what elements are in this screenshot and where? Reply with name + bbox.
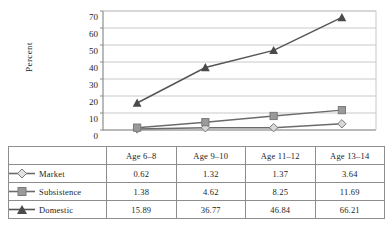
data-point-domestic-0 <box>133 99 142 107</box>
gridlines <box>103 11 376 130</box>
series-line-domestic <box>137 17 342 103</box>
data-point-subsistence-3 <box>338 107 345 114</box>
data-point-domestic-3 <box>337 13 346 21</box>
cell-subsistence-age-11-12: 8.25 <box>246 183 316 201</box>
table-header-age-13-14: Age 13–14 <box>315 147 385 165</box>
table-header-age-11-12: Age 11–12 <box>246 147 316 165</box>
plot-canvas <box>0 0 392 143</box>
table-row: Domestic 15.89 36.77 46.84 66.21 <box>9 201 385 219</box>
data-point-subsistence-1 <box>202 119 209 126</box>
table-row: Market 0.62 1.32 1.37 3.64 <box>9 165 385 183</box>
legend-label-subsistence: Subsistence <box>39 187 81 197</box>
table-header-row: Age 6–8 Age 9–10 Age 11–12 Age 13–14 <box>9 147 385 165</box>
legend-label-domestic: Domestic <box>39 205 73 215</box>
legend-item-market[interactable]: Market <box>9 165 107 183</box>
table-header-age-9-10: Age 9–10 <box>176 147 246 165</box>
table-header-age-6-8: Age 6–8 <box>107 147 177 165</box>
market-legend-icon <box>9 168 35 179</box>
data-point-market-3 <box>338 120 346 128</box>
cell-domestic-age-11-12: 46.84 <box>246 201 316 219</box>
cell-domestic-age-9-10: 36.77 <box>176 201 246 219</box>
data-point-subsistence-2 <box>270 112 277 119</box>
table-row: Subsistence 1.38 4.62 8.25 11.69 <box>9 183 385 201</box>
data-point-domestic-2 <box>269 46 278 54</box>
cell-domestic-age-13-14: 66.21 <box>315 201 385 219</box>
cell-subsistence-age-6-8: 1.38 <box>107 183 177 201</box>
legend-item-subsistence[interactable]: Subsistence <box>9 183 107 201</box>
cell-market-age-6-8: 0.62 <box>107 165 177 183</box>
data-point-subsistence-0 <box>134 124 141 131</box>
cell-domestic-age-6-8: 15.89 <box>107 201 177 219</box>
cell-market-age-11-12: 1.37 <box>246 165 316 183</box>
cell-market-age-13-14: 3.64 <box>315 165 385 183</box>
table-corner-cell <box>9 147 107 165</box>
plot-region: Percent 70 60 50 40 30 20 10 0 <box>0 0 392 143</box>
legend-label-market: Market <box>39 169 65 179</box>
chart-figure: Percent 70 60 50 40 30 20 10 0 <box>0 0 392 233</box>
cell-subsistence-age-13-14: 11.69 <box>315 183 385 201</box>
series-lines <box>137 17 342 129</box>
data-table-region: Age 6–8 Age 9–10 Age 11–12 Age 13–14 <box>8 146 384 219</box>
cell-subsistence-age-9-10: 4.62 <box>176 183 246 201</box>
subsistence-legend-icon <box>9 186 35 197</box>
domestic-legend-icon <box>9 204 35 215</box>
cell-market-age-9-10: 1.32 <box>176 165 246 183</box>
data-point-market-2 <box>269 123 277 131</box>
legend-item-domestic[interactable]: Domestic <box>9 201 107 219</box>
data-table: Age 6–8 Age 9–10 Age 11–12 Age 13–14 <box>8 146 385 219</box>
